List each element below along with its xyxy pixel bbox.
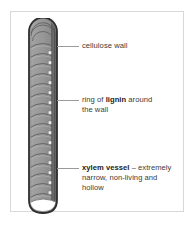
label-lignin-prefix: ring of	[82, 95, 106, 104]
leader-line-lignin	[57, 100, 79, 101]
xylem-vessel-diagram	[27, 18, 60, 214]
leader-line-xylem-vessel	[57, 168, 79, 169]
vessel-illustration	[27, 18, 60, 214]
label-ring-of-lignin: ring of lignin around the wall	[82, 95, 182, 115]
label-xylem-vessel: xylem vessel – extremely narrow, non-liv…	[82, 163, 184, 194]
leader-line-cellulose-wall	[57, 46, 79, 47]
label-cellulose-wall-text: cellulose wall	[82, 41, 127, 50]
xylem-vessel-figure-page: cellulose wall ring of lignin around the…	[0, 0, 195, 226]
label-xylem-bold: xylem vessel	[82, 163, 129, 172]
vessel-pits	[48, 51, 51, 194]
label-lignin-bold: lignin	[106, 95, 127, 104]
label-cellulose-wall: cellulose wall	[82, 41, 182, 51]
